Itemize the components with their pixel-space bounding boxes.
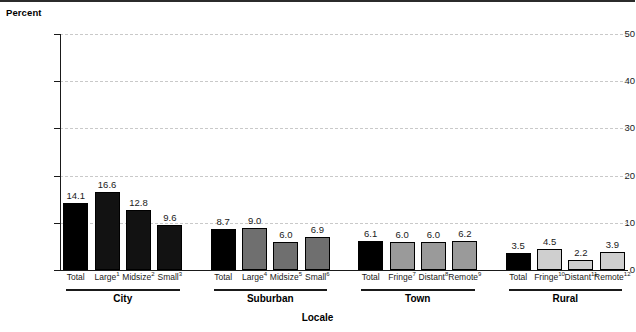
bar-value-label: 6.2 (445, 228, 485, 239)
group-label: Rural (503, 293, 629, 305)
bar-value-label: 3.9 (592, 239, 632, 250)
bar (506, 253, 531, 270)
bar (358, 241, 383, 270)
gridline (60, 128, 628, 129)
group-underline (214, 289, 328, 291)
bar (63, 203, 88, 270)
gridline (60, 176, 628, 177)
bar (211, 229, 236, 270)
bar-value-label: 9.0 (235, 215, 275, 226)
bar-value-label: 4.5 (530, 236, 570, 247)
x-axis-line (60, 270, 628, 272)
bar (452, 241, 477, 270)
group-underline (66, 289, 180, 291)
bar (242, 228, 267, 270)
bar (390, 242, 415, 270)
category-label: Small3 (146, 272, 194, 282)
bar (600, 252, 625, 270)
plot-area (60, 34, 628, 270)
group-label: Suburban (208, 293, 334, 305)
top-border-rule (0, 0, 635, 2)
gridline (60, 81, 628, 82)
group-underline (509, 289, 623, 291)
bar-value-label: 12.8 (118, 197, 158, 208)
category-label: Remote12 (588, 272, 636, 282)
category-label: Small6 (293, 272, 341, 282)
y-axis-line (60, 34, 62, 270)
y-axis-title: Percent (6, 7, 42, 18)
bar-value-label: 14.1 (56, 190, 96, 201)
bar-value-label: 9.6 (150, 212, 190, 223)
group-label: Town (355, 293, 481, 305)
bar (126, 210, 151, 270)
group-label: City (60, 293, 186, 305)
category-label: Remote9 (441, 272, 489, 282)
bar-value-label: 6.9 (297, 224, 337, 235)
bar-value-label: 16.6 (87, 179, 127, 190)
bar (421, 242, 446, 270)
bar (157, 225, 182, 270)
bar (568, 260, 593, 270)
bar (273, 242, 298, 270)
bar (95, 192, 120, 270)
gridline (60, 34, 628, 35)
x-axis-title: Locale (0, 312, 635, 324)
bar (537, 249, 562, 270)
bar (305, 237, 330, 270)
group-underline (361, 289, 475, 291)
